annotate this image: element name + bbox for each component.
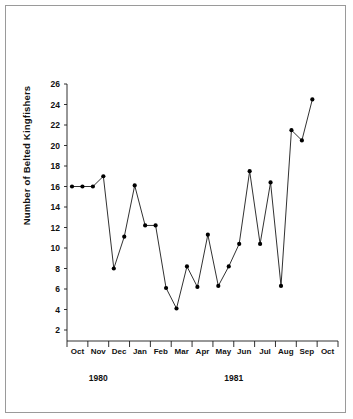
data-point: [258, 242, 262, 246]
data-point: [154, 223, 158, 227]
data-point: [310, 97, 314, 101]
data-point: [185, 264, 189, 268]
data-point: [143, 223, 147, 227]
data-point: [133, 183, 137, 187]
data-point: [279, 284, 283, 288]
data-point: [174, 306, 178, 310]
data-point: [122, 235, 126, 239]
data-point: [300, 138, 304, 142]
data-point: [91, 184, 95, 188]
data-point: [195, 285, 199, 289]
data-point: [268, 180, 272, 184]
chart-svg: [0, 0, 353, 419]
x-tick-marks: [67, 341, 338, 347]
data-point: [101, 174, 105, 178]
data-point: [80, 184, 84, 188]
data-point: [206, 233, 210, 237]
data-point: [237, 242, 241, 246]
data-line-series: [72, 99, 312, 308]
data-point: [112, 266, 116, 270]
data-point: [289, 128, 293, 132]
data-point: [70, 184, 74, 188]
data-point: [248, 169, 252, 173]
data-point: [164, 286, 168, 290]
data-point: [216, 284, 220, 288]
chart-plot-area: Number of Belted Kingfishers 24681012141…: [0, 0, 353, 419]
data-point: [227, 264, 231, 268]
